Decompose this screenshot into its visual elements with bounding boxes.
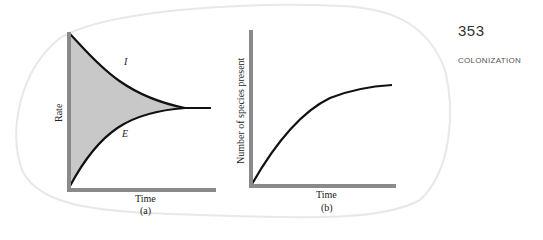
chart-a-label-I: I bbox=[124, 56, 127, 67]
chart-b bbox=[249, 30, 396, 188]
page-number: 353 bbox=[458, 22, 485, 39]
chart-a-y-label: Rate bbox=[53, 104, 64, 122]
section-title: COLONIZATION bbox=[458, 56, 521, 65]
chart-a-panel-label: (a) bbox=[140, 205, 151, 216]
chart-b-curve bbox=[252, 85, 392, 184]
chart-b-panel-label: (b) bbox=[321, 202, 333, 213]
chart-b-x-label: Time bbox=[316, 189, 337, 200]
chart-a bbox=[67, 32, 216, 192]
chart-a-label-E: E bbox=[122, 128, 128, 139]
chart-a-x-label: Time bbox=[135, 193, 156, 204]
chart-b-y-label: Number of species present bbox=[235, 58, 246, 164]
